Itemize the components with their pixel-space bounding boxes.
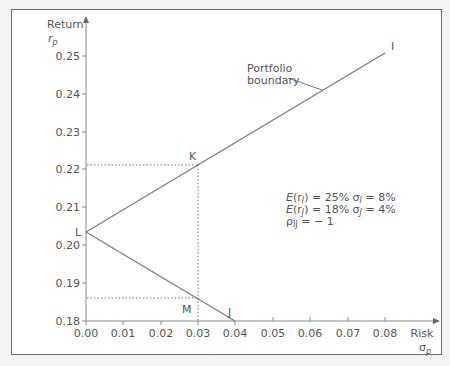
y-tick-label: 0.19 [56,277,81,290]
y-tick-label: 0.20 [56,239,81,252]
x-tick-label: 0.05 [261,327,286,340]
param-line-rho: ρIJ = − 1 [286,215,334,229]
x-tick-label: 0.00 [74,327,99,340]
x-tick-label: 0.02 [149,327,174,340]
y-tick-label: 0.22 [56,163,81,176]
x-axis-arrow-icon [433,318,440,324]
x-tick-labels: 0.00 0.01 0.02 0.03 0.04 0.05 0.06 0.07 … [74,327,398,340]
x-tick-label: 0.07 [336,327,361,340]
boundary-lower-segment [86,232,235,321]
x-axis-title: Risk [411,327,434,340]
point-label-j: J [227,306,231,319]
x-tick-label: 0.06 [298,327,323,340]
point-label-i: I [391,40,394,53]
point-label-l: L [75,226,82,239]
portfolio-boundary [86,53,385,321]
y-axis-title: Return [47,18,84,31]
boundary-label-line2: boundary [247,74,300,87]
point-label-k: K [189,150,197,163]
y-tick-label: 0.23 [56,126,81,139]
x-axis-symbol: σp [419,341,431,356]
y-axis-symbol: rp [48,32,58,47]
y-tick-label: 0.25 [56,50,81,63]
y-tick-labels: 0.18 0.19 0.20 0.21 0.22 0.23 0.24 0.25 [56,50,81,328]
point-label-m: M [182,303,192,316]
x-tick-label: 0.03 [186,327,211,340]
y-tick-label: 0.24 [56,88,81,101]
chart-svg: 0.18 0.19 0.20 0.21 0.22 0.23 0.24 0.25 … [0,0,450,366]
y-axis-arrow-icon [83,16,89,23]
x-tick-label: 0.04 [223,327,248,340]
x-tick-label: 0.01 [111,327,136,340]
y-ticks [82,56,86,321]
y-tick-label: 0.21 [56,201,81,214]
x-tick-label: 0.08 [373,327,398,340]
